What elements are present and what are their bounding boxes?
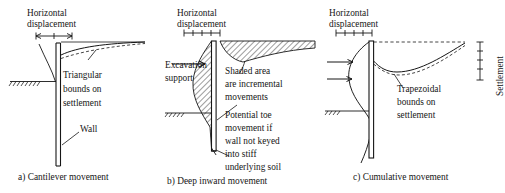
wall-b [212,41,217,155]
shaded-area-label-line2: are incremental [225,79,283,90]
hatched-settlement-trough-b [220,41,315,62]
panel-deep-inward-movement: Horizontal displacement [165,0,337,193]
trapezoidal-bounds-label-line2: bounds on [397,97,435,108]
excavation-support-label: Excavation [165,60,207,71]
deflected-shape-a [39,44,56,82]
wall-movement-figure: Horizontal displacement [0,0,505,193]
shaded-area-label: Shaded area [225,66,270,77]
panel-a-caption: a) Cantilever movement [18,172,109,182]
triangular-bounds-label: Triangular [63,70,102,81]
wall-label-a: Wall [80,124,97,135]
dimension-marker-b [184,30,220,37]
ground-line-a [9,82,56,87]
dimension-marker-a [36,33,72,40]
wall-a [56,43,61,166]
panel-cumulative-movement: Horizontal displacement [325,0,505,193]
excavation-support-label-line2: support [165,73,193,84]
settlement-curve-solid-c [374,43,465,72]
potential-toe-label-line3: wall not keyed [225,136,280,147]
potential-toe-label-line5: underlying soil [225,162,281,173]
trapezoidal-bounds-label-line3: settlement [397,110,435,121]
wall-c [369,41,374,158]
settlement-dimension-c [477,42,484,80]
trapezoidal-bounds-label: Trapezoidal [397,84,441,95]
hatched-wall-movement-b [193,41,212,148]
triangular-bounds-label-line3: settlement [63,98,101,109]
panel-a-graphics [0,0,168,193]
potential-toe-label-line4: into stiff [225,149,257,160]
potential-toe-label-line2: movement if [225,123,272,134]
shaded-area-label-line3: movements [225,92,268,103]
settlement-axis-label: Settlement [495,56,505,96]
dimension-marker-c [336,30,372,37]
leader-line-wall-a [62,132,79,145]
deflection-profile-c [349,42,371,163]
ground-line-c [325,111,369,115]
triangular-bounds-label-line2: bounds on [63,84,101,95]
potential-toe-label: Potential toe [225,110,272,121]
panel-cantilever-movement: Horizontal displacement [0,0,168,193]
panel-b-caption: b) Deep inward movement [167,176,267,186]
leader-line-triangular-a [88,50,96,60]
panel-c-caption: c) Cumulative movement [353,172,448,182]
